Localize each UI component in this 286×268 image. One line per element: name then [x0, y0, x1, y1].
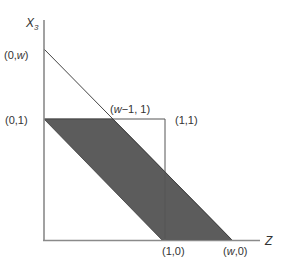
- label-0-w: (0,w): [4, 49, 28, 61]
- label-1-1: (1,1): [175, 114, 198, 126]
- x-axis-label: Z: [264, 234, 273, 248]
- label-w-minus-1-1: (w−1, 1): [110, 103, 150, 115]
- y-axis-label: X3: [25, 16, 39, 32]
- shaded-region: [44, 119, 232, 240]
- label-0-1: (0,1): [5, 114, 28, 126]
- label-w-0: (w,0): [223, 245, 247, 257]
- label-1-0: (1,0): [162, 245, 185, 257]
- diagram: X3 Z (0,w) (0,1) (w−1, 1) (1,1) (1,0) (w…: [0, 0, 286, 268]
